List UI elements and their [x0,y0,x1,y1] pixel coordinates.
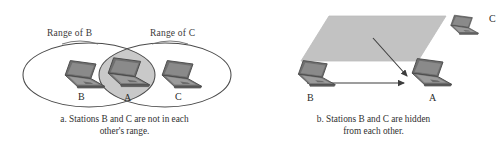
station-a-label: A [429,92,436,103]
panel-a-ranges: Range of B Range of C B A C a. Stations … [0,0,249,154]
panel-a-caption: a. Stations B and C are not in each othe… [0,114,249,137]
station-c-label: C [175,91,182,102]
laptop-c-icon [451,15,479,34]
range-of-c-label: Range of C [150,28,195,38]
station-c-label: C [489,13,496,24]
station-a-label: A [124,92,131,103]
station-b-label: B [78,91,85,102]
laptop-b-icon [298,61,335,87]
range-of-b-label: Range of B [47,28,92,38]
laptop-c-icon [162,61,201,88]
panel-a-caption-line2: other's range. [0,126,249,138]
hidden-station-figure: Range of B Range of C B A C a. Stations … [0,0,498,154]
panel-b-caption-line1: b. Stations B and C are hidden [249,114,498,126]
panel-a-caption-line1: a. Stations B and C are not in each [0,114,249,126]
panel-b-caption: b. Stations B and C are hidden from each… [249,114,498,137]
panel-b-caption-line2: from each other. [249,126,498,138]
station-b-label: B [307,92,314,103]
panel-b-hidden-stations: C B A b. Stations B and C are hidden fro… [249,0,498,154]
laptop-a-icon [412,59,451,86]
